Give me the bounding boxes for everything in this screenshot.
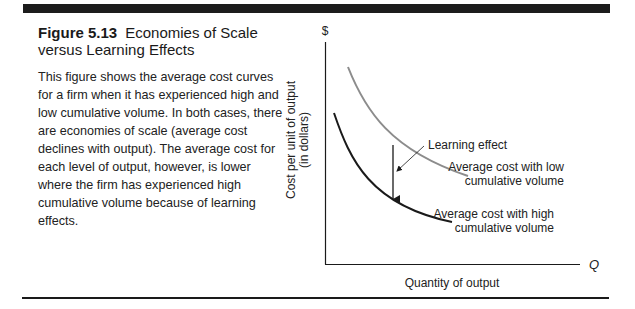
- bottom-rule: [22, 297, 609, 299]
- y-axis-symbol: $: [322, 24, 329, 38]
- learning-effect-label: Learning effect: [428, 138, 508, 152]
- y-axis-label-line2: (in dollars): [297, 112, 311, 168]
- y-axis-label: Cost per unit of output (in dollars): [284, 80, 311, 199]
- high-curve-label-line1: Average cost with high: [433, 207, 554, 221]
- x-axis-label: Quantity of output: [405, 276, 500, 290]
- y-axis-label-line1: Cost per unit of output: [284, 80, 298, 199]
- low-curve-label-line2: cumulative volume: [465, 174, 565, 188]
- x-axis-symbol: Q: [589, 257, 599, 272]
- cost-curve-chart: $ Q Cost per unit of output (in dollars)…: [0, 0, 635, 309]
- low-curve-label-line1: Average cost with low: [448, 160, 564, 174]
- high-curve-label-line2: cumulative volume: [455, 221, 555, 235]
